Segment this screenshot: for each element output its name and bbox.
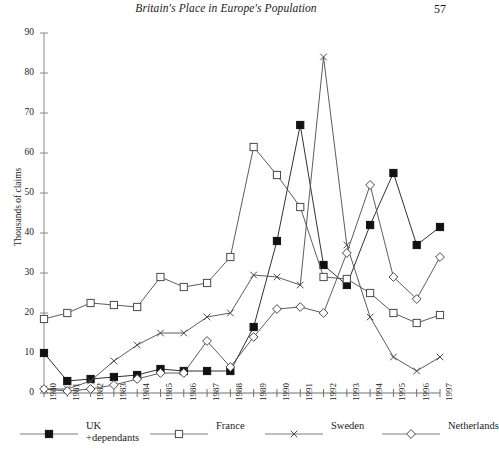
page-title: Britain's Place in Europe's Population xyxy=(0,2,452,14)
x-tick-label: 1980 xyxy=(48,383,58,401)
data-point xyxy=(390,309,397,316)
data-point xyxy=(86,385,95,394)
data-point xyxy=(110,301,117,308)
x-tick-label: 1997 xyxy=(444,383,454,401)
x-tick-label: 1992 xyxy=(328,383,338,401)
x-tick-label: 1996 xyxy=(421,383,431,401)
data-point xyxy=(319,309,328,318)
data-point xyxy=(407,430,416,439)
legend-label: UK xyxy=(86,420,101,432)
y-tick-label: 0 xyxy=(8,387,34,397)
data-point xyxy=(367,314,374,321)
y-tick-label: 70 xyxy=(8,107,34,117)
data-point xyxy=(320,273,327,280)
data-point xyxy=(320,261,327,268)
x-tick-label: 1990 xyxy=(281,383,291,401)
x-tick-label: 1982 xyxy=(95,383,105,401)
data-point xyxy=(40,315,47,322)
data-point xyxy=(273,171,280,178)
series-sweden xyxy=(41,54,444,393)
data-point xyxy=(436,223,443,230)
data-point xyxy=(296,303,305,312)
x-tick-label: 1986 xyxy=(188,383,198,401)
page-number: 57 xyxy=(434,2,446,17)
data-point xyxy=(367,289,374,296)
running-head: Britain's Place in Europe's Population 5… xyxy=(0,0,452,22)
x-tick-label: 1993 xyxy=(351,383,361,401)
line-chart: Thousands of claims 01020304050607080901… xyxy=(0,22,452,466)
data-point xyxy=(250,143,257,150)
data-point xyxy=(413,241,420,248)
legend-label: Netherlands xyxy=(448,420,499,432)
y-tick-label: 30 xyxy=(8,267,34,277)
data-point xyxy=(134,342,141,349)
legend-marker-open-square-icon xyxy=(148,426,210,438)
x-tick-label: 1984 xyxy=(141,383,151,401)
data-point xyxy=(203,367,210,374)
data-point xyxy=(157,273,164,280)
data-point xyxy=(413,319,420,326)
data-point xyxy=(64,377,71,384)
x-tick-label: 1989 xyxy=(258,383,268,401)
legend-marker-open-diamond-icon xyxy=(380,426,442,438)
data-point xyxy=(111,358,118,365)
data-point xyxy=(40,349,47,356)
series-uk xyxy=(40,121,443,384)
y-tick-label: 20 xyxy=(8,307,34,317)
data-point xyxy=(109,381,118,390)
data-point xyxy=(64,309,71,316)
x-tick-label: 1991 xyxy=(304,383,314,401)
y-tick-label: 80 xyxy=(8,67,34,77)
legend-sub-label: +dependants xyxy=(86,432,139,444)
legend-label: Sweden xyxy=(331,420,364,432)
y-tick-label: 10 xyxy=(8,347,34,357)
y-tick-label: 90 xyxy=(8,27,34,37)
x-tick-label: 1987 xyxy=(211,383,221,401)
data-point xyxy=(227,253,234,260)
data-point xyxy=(203,279,210,286)
data-point xyxy=(110,373,117,380)
x-tick-label: 1983 xyxy=(118,383,128,401)
legend-marker-cross-icon xyxy=(263,426,325,438)
y-tick-label: 40 xyxy=(8,227,34,237)
chart-legend: UK+dependantsFranceSwedenNetherlands xyxy=(18,418,448,464)
data-point xyxy=(180,283,187,290)
series-netherlands xyxy=(40,181,445,396)
x-tick-label: 1988 xyxy=(234,383,244,401)
data-point xyxy=(413,368,420,375)
legend-marker-filled-square-icon xyxy=(18,426,80,438)
x-tick-label: 1981 xyxy=(71,383,81,401)
data-point xyxy=(437,354,444,361)
chart-canvas xyxy=(0,22,452,466)
data-point xyxy=(45,430,52,437)
data-point xyxy=(175,430,182,437)
data-point xyxy=(436,311,443,318)
legend-label: France xyxy=(216,420,245,432)
x-tick-label: 1994 xyxy=(374,383,384,401)
data-point xyxy=(367,221,374,228)
x-tick-label: 1985 xyxy=(164,383,174,401)
x-tick-label: 1995 xyxy=(397,383,407,401)
data-point xyxy=(366,181,375,190)
data-point xyxy=(250,323,257,330)
axes xyxy=(44,33,440,393)
data-point xyxy=(342,249,351,258)
data-point xyxy=(273,237,280,244)
data-point xyxy=(134,303,141,310)
data-point xyxy=(343,275,350,282)
y-tick-label: 60 xyxy=(8,147,34,157)
y-tick-label: 50 xyxy=(8,187,34,197)
data-point xyxy=(390,169,397,176)
data-point xyxy=(390,354,397,361)
data-point xyxy=(87,299,94,306)
data-point xyxy=(436,253,445,262)
data-point xyxy=(297,121,304,128)
data-point xyxy=(297,203,304,210)
